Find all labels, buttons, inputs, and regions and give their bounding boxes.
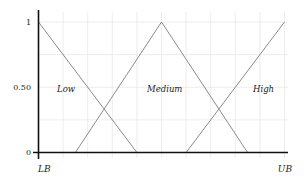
y-tick-1: 1 <box>26 18 31 27</box>
y-tick-0-50: 0.50 <box>13 83 31 92</box>
x-tick-upper-bound: UB <box>278 164 293 174</box>
x-tick-lower-bound: LB <box>37 164 51 174</box>
y-tick-0: 0 <box>26 148 31 157</box>
membership-function-chart: 1 0.50 0 LB UB Low Medium High <box>0 0 304 181</box>
set-label-low: Low <box>56 84 76 94</box>
set-label-high: High <box>252 84 274 94</box>
set-label-medium: Medium <box>146 84 182 94</box>
